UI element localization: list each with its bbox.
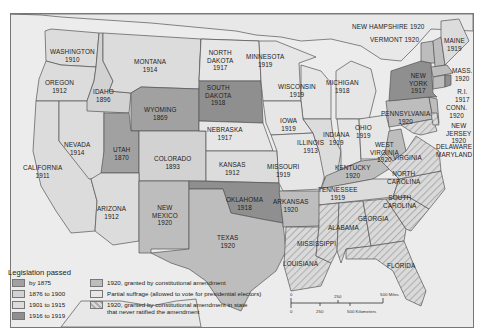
label-texas: TEXAS1920 — [217, 234, 238, 249]
label-ohio: OHIO1919 — [355, 124, 372, 139]
label-delaware: DELAWARE — [436, 143, 472, 151]
label-south-carolina: SOUTHCAROLINA — [383, 194, 416, 209]
label-washington: WASHINGTON1910 — [50, 48, 95, 63]
label-arkansas: ARKANSAS1920 — [273, 198, 309, 213]
label-new-jersey: NEWJERSEY1920 — [446, 122, 471, 145]
label-nevada: NEVADA1914 — [64, 141, 90, 156]
label-new-york: NEWYORK1917 — [409, 72, 428, 95]
label-colorado: COLORADO1893 — [154, 155, 191, 170]
label-arizona: ARIZONA1912 — [97, 205, 126, 220]
label-vermont: VERMONT 1920 — [370, 36, 419, 44]
label-florida: FLORIDA — [387, 262, 415, 270]
label-missouri: MISSOURI1919 — [267, 163, 299, 178]
label-wisconsin: WISCONSIN1919 — [278, 83, 316, 98]
label-south-dakota: SOUTHDAKOTA1918 — [205, 84, 231, 107]
legend-item-1876-1900: 1876 to 1900 — [12, 290, 65, 299]
legend-swatch-hatched — [90, 301, 103, 309]
label-north-dakota: NORTHDAKOTA1917 — [207, 49, 233, 72]
label-oregon: OREGON1912 — [45, 79, 74, 94]
label-oklahoma: OKLAHOMA1918 — [226, 196, 263, 211]
label-connecticut: CONN.1920 — [446, 104, 467, 119]
label-new-hampshire: NEW HAMPSHIRE 1920 — [352, 23, 425, 31]
label-louisiana: LOUISIANA — [283, 260, 318, 268]
state-rhode-island — [445, 75, 451, 87]
label-pennsylvania: PENNSYLVANIA1920 — [381, 110, 430, 125]
label-rhode-island: R.I.1917 — [455, 88, 470, 103]
label-kentucky: KENTUCKY1920 — [335, 164, 371, 179]
state-connecticut — [433, 75, 445, 89]
label-west-virginia: WESTVIRGINIA1920 — [370, 141, 399, 164]
legend-swatch — [90, 279, 103, 287]
label-tennessee: TENNESSEE1919 — [318, 186, 358, 201]
label-indiana: INDIANA1919 — [323, 131, 350, 146]
state-mississippi — [316, 203, 339, 263]
label-new-mexico: NEWMEXICO1920 — [152, 204, 178, 227]
legend-swatch — [12, 312, 25, 320]
legend-swatch — [12, 301, 25, 309]
label-massachusetts: MASS.1920 — [452, 67, 472, 82]
label-illinois: ILLINOIS1913 — [297, 139, 324, 154]
legend-item-1920-amendment: 1920, granted by constitutional amendmen… — [90, 279, 226, 288]
label-georgia: GEORGIA — [358, 215, 389, 223]
legend-item-1916-1919: 1916 to 1919 — [12, 312, 65, 321]
label-michigan: MICHIGAN1918 — [326, 79, 359, 94]
label-mississippi: MISSISSIPPI — [297, 240, 336, 248]
legend-swatch — [12, 279, 25, 287]
label-utah: UTAH1870 — [113, 146, 130, 161]
map-legend: Legislation passed by 1875 1876 to 1900 … — [8, 268, 308, 324]
label-idaho: IDAHO1896 — [93, 88, 114, 103]
label-north-carolina: NORTHCAROLINA — [387, 170, 420, 185]
label-maine: MAINE1919 — [444, 37, 465, 52]
legend-item-by-1875: by 1875 — [12, 279, 51, 288]
label-minnesota: MINNESOTA1919 — [246, 53, 284, 68]
legend-title: Legislation passed — [8, 268, 71, 277]
label-california: CALIFORNIA1911 — [23, 164, 62, 179]
label-iowa: IOWA1919 — [280, 117, 297, 132]
label-montana: MONTANA1914 — [134, 58, 166, 73]
legend-item-partial-suffrage: Partial suffrage (allowed to vote for pr… — [90, 290, 261, 299]
legend-item-1901-1915: 1901 to 1915 — [12, 301, 65, 310]
label-nebraska: NEBRASKA1917 — [207, 126, 243, 141]
scale-bar: 0 250 500 Miles 0 250 500 Kilometers — [283, 290, 403, 316]
legend-swatch — [90, 290, 103, 298]
label-maryland: MARYLAND — [436, 151, 472, 159]
label-alabama: ALABAMA — [328, 224, 359, 232]
state-vermont — [421, 41, 435, 63]
label-kansas: KANSAS1912 — [219, 161, 246, 176]
label-wyoming: WYOMING1869 — [144, 106, 177, 121]
legend-item-never-ratified: 1920, granted by constitutional amendmen… — [90, 301, 247, 317]
legend-swatch — [12, 290, 25, 298]
